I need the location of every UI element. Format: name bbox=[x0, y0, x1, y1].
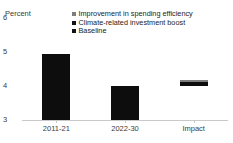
x-axis-label: 2011-21 bbox=[22, 124, 91, 134]
x-axis-tickmark bbox=[194, 120, 195, 123]
bar-segment bbox=[42, 54, 70, 120]
bar-2022-30[interactable] bbox=[111, 86, 139, 120]
chart-title: Infrastructure bbox=[9, 0, 56, 2]
y-axis-tick-label: 6 bbox=[3, 14, 19, 22]
bar-segment bbox=[180, 80, 208, 82]
x-axis-labels: 2011-212022-30Impact bbox=[22, 124, 228, 136]
x-axis-label: 2022-30 bbox=[91, 124, 160, 134]
bar-segment bbox=[180, 82, 208, 86]
plot-area: 3456 bbox=[22, 18, 228, 120]
x-axis-label: Impact bbox=[159, 124, 228, 134]
x-axis-tickmark bbox=[125, 120, 126, 123]
legend-swatch-icon bbox=[72, 12, 76, 16]
y-axis-tick-label: 4 bbox=[3, 82, 19, 90]
y-axis-tick-label: 3 bbox=[3, 116, 19, 124]
y-axis-tick-label: 5 bbox=[3, 48, 19, 56]
x-axis-tickmark bbox=[56, 120, 57, 123]
bar-segment bbox=[111, 86, 139, 120]
bar-2011-21[interactable] bbox=[42, 54, 70, 120]
infrastructure-bar-chart: Infrastructure Percent Improvement in sp… bbox=[0, 0, 233, 143]
bar-impact[interactable] bbox=[180, 80, 208, 86]
